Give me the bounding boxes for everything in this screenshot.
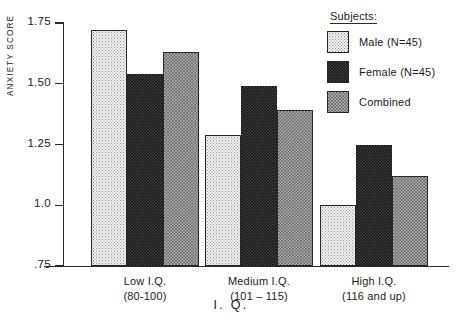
legend-swatch-male <box>327 31 349 53</box>
legend-rows: Male (N=45)Female (N=45)Combined <box>327 31 457 113</box>
y-axis-tick <box>55 144 64 145</box>
bar-female-3 <box>356 145 392 267</box>
group-label-main: Medium I.Q. <box>228 275 290 287</box>
bar-male-2 <box>205 135 241 266</box>
x-axis-line <box>44 266 449 267</box>
y-axis-tick-label: 1.25 <box>0 137 51 149</box>
legend-label-combined: Combined <box>359 96 411 108</box>
x-axis-title: I. Q. <box>0 298 462 312</box>
legend-label-male: Male (N=45) <box>359 36 422 48</box>
bar-combined-2 <box>277 110 313 266</box>
group-label-main: Low I.Q. <box>124 275 167 287</box>
legend-title: Subjects: <box>330 10 377 24</box>
legend-item-male: Male (N=45) <box>327 31 457 53</box>
bar-male-3 <box>320 205 356 266</box>
y-axis-tick-label: .75 <box>0 258 51 270</box>
bar-female-1 <box>127 74 163 266</box>
y-axis-tick-label: 1.50 <box>0 76 51 88</box>
legend: Subjects: Male (N=45)Female (N=45)Combin… <box>327 6 457 121</box>
bar-combined-1 <box>163 52 199 266</box>
legend-swatch-female <box>327 61 349 83</box>
legend-item-female: Female (N=45) <box>327 61 457 83</box>
legend-label-female: Female (N=45) <box>359 66 435 78</box>
bar-female-2 <box>241 86 277 266</box>
y-axis-tick <box>55 83 64 84</box>
y-axis-tick-label: 1.75 <box>0 15 51 27</box>
anxiety-score-bar-chart: ANXIETY SCORE 1.751.501.251.0.75 Low I.Q… <box>0 0 462 318</box>
y-axis-tick <box>55 265 64 266</box>
bar-male-1 <box>91 30 127 266</box>
y-axis-tick-label: 1.0 <box>0 197 51 209</box>
legend-item-combined: Combined <box>327 91 457 113</box>
legend-swatch-combined <box>327 91 349 113</box>
group-label-main: High I.Q. <box>351 275 396 287</box>
y-axis-tick <box>55 205 64 206</box>
bar-combined-3 <box>392 176 428 266</box>
y-axis-tick <box>55 22 64 23</box>
